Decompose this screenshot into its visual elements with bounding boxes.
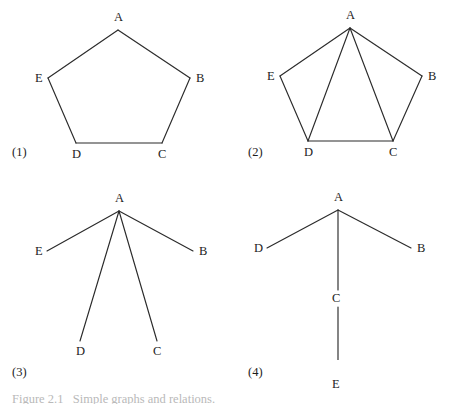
edge-d-e [48, 78, 76, 143]
edge-a-d [308, 28, 350, 141]
vertex-label-d: D [76, 345, 85, 358]
vertex-label-c: C [332, 292, 341, 305]
edge-a-d [267, 210, 338, 248]
graph-drawing-1 [0, 0, 236, 180]
edge-e-a [48, 30, 118, 78]
edge-e-a [280, 28, 350, 76]
edge-b-c [162, 78, 190, 143]
edge-a-d [80, 211, 119, 341]
vertex-label-a: A [346, 9, 355, 22]
figure-panel-1: A B C D E (1) [0, 0, 236, 180]
edge-b-c [393, 76, 422, 141]
vertex-label-e: E [35, 245, 43, 258]
vertex-label-c: C [158, 148, 167, 161]
figure-sheet: A B C D E (1) A B C D E (2) A B [0, 0, 473, 404]
vertex-label-e: E [267, 70, 275, 83]
graph-drawing-4 [236, 180, 472, 360]
vertex-label-b: B [199, 245, 208, 258]
edge-a-b [338, 210, 411, 248]
edge-a-b [118, 30, 190, 78]
edge-d-e [280, 76, 308, 141]
panel-number-1: (1) [12, 146, 27, 159]
vertex-label-a: A [334, 191, 343, 204]
figure-caption: Figure 2.1 Simple graphs and relations. [12, 392, 452, 404]
panel-number-4: (4) [248, 366, 263, 379]
figure-panel-2: A B C D E (2) [236, 0, 472, 180]
vertex-label-e: E [332, 378, 340, 391]
vertex-label-a: A [114, 11, 123, 24]
edge-a-c [350, 28, 393, 141]
vertex-label-b: B [428, 70, 437, 83]
vertex-label-e: E [35, 72, 43, 85]
figure-panel-3: A B C D E (3) [0, 180, 236, 360]
graph-drawing-2 [236, 0, 472, 180]
vertex-label-b: B [196, 72, 205, 85]
edge-a-c [119, 211, 157, 341]
vertex-label-b: B [417, 242, 426, 255]
graph-drawing-3 [0, 180, 236, 360]
edge-a-b [350, 28, 422, 76]
vertex-label-d: D [304, 146, 313, 159]
edge-a-b [119, 211, 193, 251]
panel-number-3: (3) [12, 366, 27, 379]
vertex-label-c: C [153, 345, 162, 358]
figure-panel-4: A B C D E (4) [236, 180, 472, 360]
panel-number-2: (2) [248, 146, 263, 159]
vertex-label-d: D [254, 242, 263, 255]
vertex-label-c: C [389, 146, 398, 159]
vertex-label-a: A [115, 192, 124, 205]
vertex-label-d: D [72, 148, 81, 161]
